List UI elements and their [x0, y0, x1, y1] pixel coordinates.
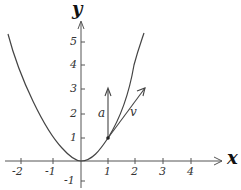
y-tick-label: 2: [70, 108, 77, 119]
y-tick-label: 5: [70, 36, 77, 47]
x-tick-label: 4: [187, 166, 194, 177]
diagram-graphics: [0, 0, 241, 190]
point-1-1: [106, 136, 110, 140]
y-tick-label: 4: [70, 59, 77, 70]
x-tick-label: 1: [104, 166, 111, 177]
y-axis-label: y: [72, 0, 82, 18]
velocity-label: v: [130, 106, 137, 118]
acceleration-label: a: [98, 107, 105, 119]
x-axis-label: x: [227, 149, 238, 167]
x-tick-label: 3: [159, 166, 166, 177]
x-tick-label: -2: [12, 166, 23, 177]
x-tick-label: -1: [45, 166, 56, 177]
y-tick-label: -1: [64, 175, 75, 186]
y-tick-label: 3: [70, 83, 77, 94]
parabola-diagram: y x -2 -1 1 2 3 4 5 4 3 2 1 -1 a v: [0, 0, 241, 190]
x-tick-label: 2: [131, 166, 138, 177]
y-tick-label: 1: [70, 132, 77, 143]
